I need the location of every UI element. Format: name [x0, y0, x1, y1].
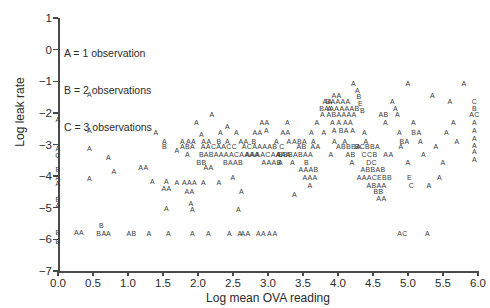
data-point-letter: B: [99, 222, 104, 229]
data-point-letter: A: [106, 230, 111, 237]
data-point-letter: C: [472, 97, 477, 104]
data-point-letter: A: [190, 206, 195, 213]
data-point-letter: A: [383, 119, 388, 126]
data-point-letter: A: [153, 129, 158, 136]
data-point-letter: BA: [399, 137, 409, 144]
data-point-letter: AA: [259, 119, 269, 126]
data-point-letter: AAA: [302, 173, 317, 180]
data-point-letter: A: [87, 145, 92, 152]
data-point-letter: A: [321, 129, 326, 136]
data-point-letter: A: [395, 111, 400, 118]
data-point-letter: A: [87, 174, 92, 181]
data-point-letter: CCB: [362, 150, 378, 157]
data-point-letter: DC: [366, 158, 377, 165]
data-point-letter: A: [472, 148, 477, 155]
data-point-letter: A: [230, 173, 235, 180]
data-point-letter: A: [351, 79, 356, 86]
data-point-letter: A: [320, 111, 325, 118]
data-point-letter: A: [206, 230, 211, 237]
data-point-letter: AA: [138, 164, 148, 171]
data-point-letter: A: [437, 173, 442, 180]
data-point-letter: C: [409, 181, 414, 188]
data-point-letter: A: [236, 206, 241, 213]
data-point-letter: AB: [378, 111, 388, 118]
data-point-letter: C: [55, 151, 60, 158]
data-point-letter: A: [451, 119, 456, 126]
data-point-letter: A BA A: [332, 127, 356, 134]
data-point-letter: A: [472, 119, 477, 126]
data-point-letter: A: [87, 127, 92, 134]
data-point-letter: A: [218, 129, 223, 136]
data-point-letter: AAACEBB: [357, 173, 393, 180]
data-point-letter: AB: [126, 230, 136, 237]
data-point-letter: AA: [256, 230, 266, 237]
data-point-letter: A: [430, 91, 435, 98]
data-point-letter: A: [225, 137, 230, 144]
data-point-letter: ABAA: [293, 150, 313, 157]
data-point-letter: A: [185, 150, 190, 157]
data-point-letter: AB: [297, 143, 307, 150]
data-point-letter: AA: [252, 129, 262, 136]
data-point-letter: AC: [469, 111, 479, 118]
data-point-letter: A: [225, 122, 230, 129]
data-point-letter: AA: [280, 129, 290, 136]
data-point-letter: BAAAA: [325, 97, 350, 104]
data-point-letter: A: [55, 180, 60, 187]
data-point-letter: AAA: [182, 178, 197, 185]
data-point-letter: A: [461, 79, 466, 86]
data-point-letter: A: [267, 230, 272, 237]
data-point-letter: A A AA: [330, 119, 353, 126]
data-point-letter: B: [55, 166, 60, 173]
data-point-letter: A: [272, 230, 277, 237]
data-point-letter: A: [274, 137, 279, 144]
data-point-letter: A: [405, 79, 410, 86]
data-point-letter: A: [164, 177, 169, 184]
data-point-letter: A: [166, 230, 171, 237]
data-point-letter: A: [201, 178, 206, 185]
data-point-letter: A: [190, 230, 195, 237]
data-point-letter: AA: [311, 143, 321, 150]
scatter-plot-figure: 10−1−2−3−4−5−6−7 0.00.51.01.52.02.53.03.…: [0, 0, 490, 308]
data-point-letter: AA: [161, 185, 171, 192]
data-point-letter: AAAB: [299, 166, 319, 173]
data-point-letter: B: [55, 237, 60, 244]
data-point-letter: AA: [186, 137, 196, 144]
data-point-letter: A: [286, 137, 291, 144]
data-point-letter: A: [433, 143, 438, 150]
data-point-letter: ABAAAA: [326, 111, 356, 118]
data-point-letter: A: [405, 158, 410, 165]
data-point-letter: A: [106, 153, 111, 160]
data-point-letter: A: [349, 158, 354, 165]
data-point-letter: A: [285, 119, 290, 126]
data-point-letter: A: [421, 150, 426, 157]
data-point-letter: AA: [74, 229, 84, 236]
data-point-letter: B: [356, 93, 361, 100]
data-point-letter: BCBBA: [355, 143, 380, 150]
data-point-letter: A: [447, 97, 452, 104]
data-point-letter: A: [309, 129, 314, 136]
data-point-letter: A: [234, 129, 239, 136]
data-point-letter: AC: [397, 230, 407, 237]
data-point-letter: A: [55, 202, 60, 209]
data-point-letter: AA: [383, 150, 393, 157]
data-point-letter: C: [279, 143, 284, 150]
data-point-letter: A: [239, 188, 244, 195]
data-point-letter: AA: [241, 230, 251, 237]
data-point-letter: A: [87, 90, 92, 97]
data-point-letter: ABBAB: [360, 166, 385, 173]
data-point-letter: A: [362, 129, 367, 136]
data-point-letter: A: [174, 147, 179, 154]
data-point-letter: E: [407, 173, 412, 180]
data-point-letter: AA: [203, 164, 213, 171]
data-point-letter: A: [472, 127, 477, 134]
data-point-letter: AB: [346, 150, 356, 157]
data-point-letter: BAAB: [223, 158, 243, 165]
data-point-letter: A: [216, 178, 221, 185]
data-point-letter: A: [397, 129, 402, 136]
data-point-letter: A: [150, 177, 155, 184]
data-point-letter: A: [146, 230, 151, 237]
data-point-letter: A: [454, 137, 459, 144]
data-point-letter: AA: [185, 188, 195, 195]
data-point-letter: A: [194, 119, 199, 126]
data-point-letter: A: [278, 158, 283, 165]
